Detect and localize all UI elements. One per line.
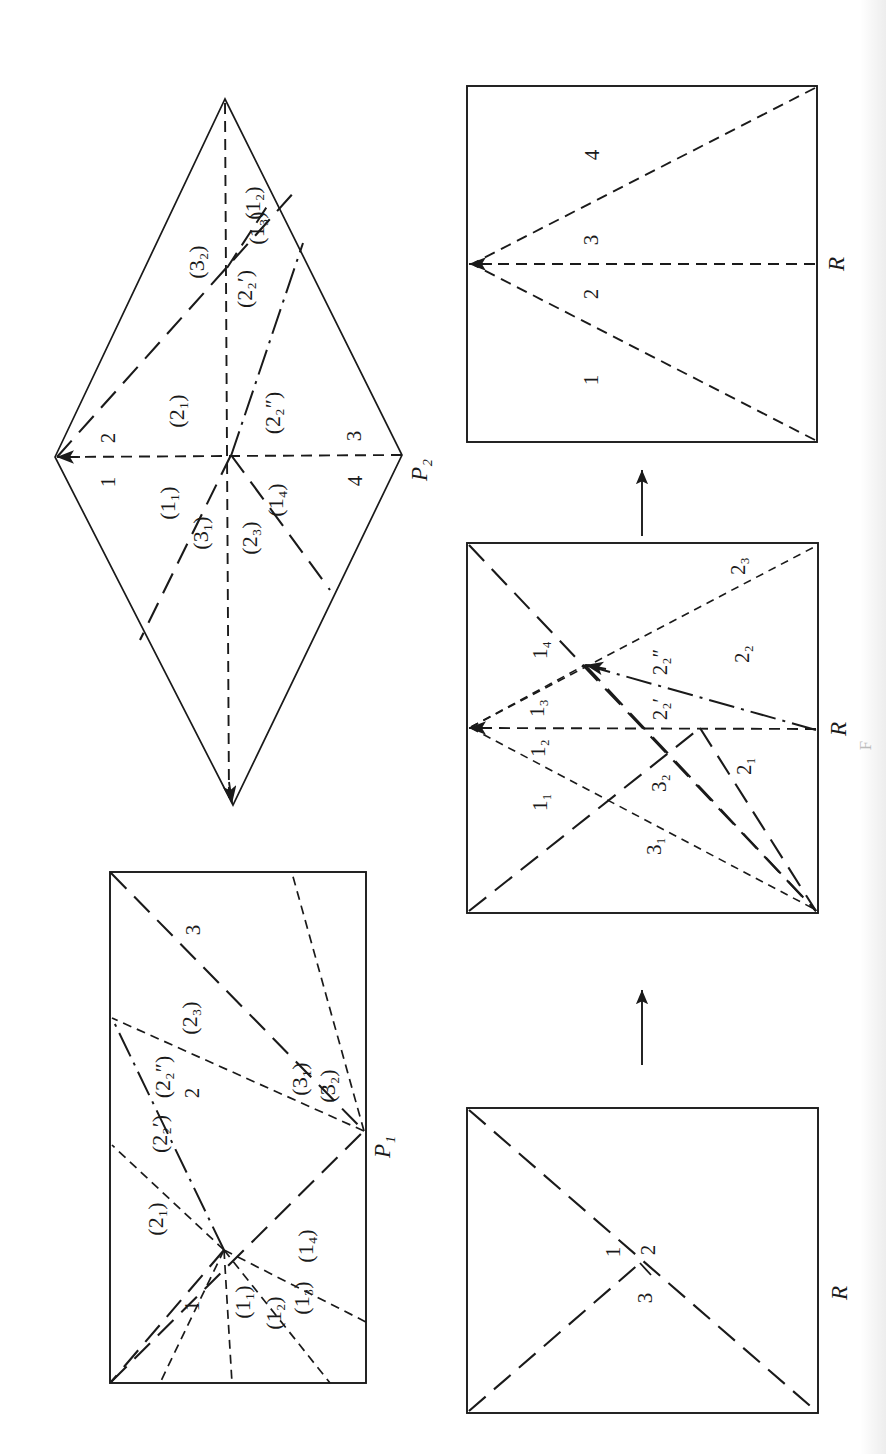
region-3-1-r-middle: 3₁ bbox=[644, 837, 665, 855]
figure-page: P₂ 1 2 3 4 (1₂) (1₃) (3₂) (2₂′) (2₁) (2₂… bbox=[0, 0, 886, 1454]
region-1-4-p1: (1₄) bbox=[295, 1229, 317, 1262]
region-2-2-prime-p2: (2₂′) bbox=[234, 270, 256, 308]
region-3-1-p1: (3₁) bbox=[289, 1062, 311, 1095]
region-3-r-top: 3 bbox=[581, 235, 602, 246]
edge-number-3-p2: 3 bbox=[344, 431, 365, 442]
region-2-3-p1: (2₃) bbox=[179, 1001, 201, 1034]
region-1-1-r-middle: 1₁ bbox=[530, 793, 551, 811]
region-1-2-p1: (1₂) bbox=[263, 1296, 285, 1329]
region-2-3-p2: (2₃) bbox=[239, 521, 261, 554]
vertex-label-r-bottom: R bbox=[828, 1286, 851, 1300]
panel-rect-r-bottom bbox=[467, 1108, 818, 1413]
region-3-1-p2: (3₁) bbox=[190, 516, 212, 549]
vertex-label-r-middle: R bbox=[827, 722, 850, 736]
region-4-r-top: 4 bbox=[582, 150, 603, 161]
region-3-2-r-middle: 3₂ bbox=[649, 774, 670, 792]
region-2-1-p2: (2₁) bbox=[166, 394, 188, 427]
vertex-label-p2: P₂ bbox=[408, 459, 431, 481]
region-2-2-dprime-r-middle: 2₂″ bbox=[650, 649, 671, 676]
region-2-r-bottom: 2 bbox=[638, 1245, 659, 1256]
region-2-2-dprime-p1: (2₂″) bbox=[152, 1056, 174, 1099]
region-1-1-p1: (1₁) bbox=[232, 1285, 254, 1318]
panel-diamond-p2 bbox=[55, 99, 402, 805]
edge-number-1-p2: 1 bbox=[98, 477, 119, 488]
region-3-r-bottom: 3 bbox=[635, 1293, 656, 1304]
vertex-label-p1: P₁ bbox=[371, 1136, 394, 1158]
region-2-1-p1: (2₁) bbox=[145, 1202, 167, 1235]
region-2-3-r-middle: 2₃ bbox=[728, 557, 749, 575]
region-2-1-r-middle: 2₁ bbox=[734, 757, 755, 775]
region-1-1-p2: (1₁) bbox=[157, 486, 179, 519]
region-1-3-p2: (1₃) bbox=[246, 211, 268, 244]
panel-rect-r-top bbox=[467, 86, 817, 442]
edge-number-1-p1: 1 bbox=[182, 1301, 203, 1312]
region-2-2-dprime-p2: (2₂″) bbox=[262, 392, 284, 435]
edge-number-3-p1: 3 bbox=[183, 925, 204, 936]
region-1-4-p2: (1₄) bbox=[265, 483, 287, 516]
vertex-label-r-top: R bbox=[825, 257, 848, 271]
region-3-2-p2: (3₂) bbox=[186, 245, 208, 278]
edge-number-2-p2: 2 bbox=[98, 433, 119, 444]
region-1-2-r-middle: 1₂ bbox=[528, 739, 549, 757]
edge-number-4-p2: 4 bbox=[345, 476, 366, 487]
region-2-r-top: 2 bbox=[581, 289, 602, 300]
page-bleed-text: F bbox=[856, 740, 876, 750]
region-1-4-r-middle: 1₄ bbox=[530, 641, 551, 659]
figure-canvas bbox=[0, 0, 886, 1454]
region-3-2-p1: (3₂) bbox=[317, 1069, 339, 1102]
region-2-2-prime-r-middle: 2₂′ bbox=[650, 698, 671, 720]
region-2-2-prime-p1: (2₂′) bbox=[149, 1115, 171, 1153]
region-1-r-top: 1 bbox=[581, 375, 602, 386]
region-1-r-bottom: 1 bbox=[603, 1247, 624, 1258]
edge-number-2-p1: 2 bbox=[182, 1088, 203, 1099]
panel-rect-r-middle bbox=[467, 543, 818, 913]
region-1-3-r-middle: 1₃ bbox=[527, 699, 548, 717]
region-2-2-r-middle: 2₂ bbox=[732, 645, 753, 663]
region-1-3-p1: (1₃) bbox=[291, 1281, 313, 1314]
